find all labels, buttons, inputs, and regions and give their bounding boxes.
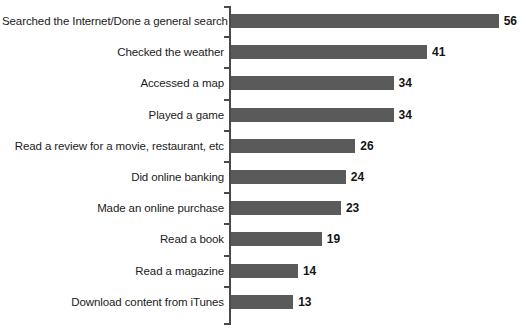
- bar-row: Made an online purchase23: [0, 198, 526, 218]
- bar-value-label: 56: [504, 11, 517, 31]
- bar: [231, 201, 341, 215]
- axis-tick: [224, 286, 230, 288]
- axis-tick: [224, 36, 230, 38]
- bar-category-label: Made an online purchase: [2, 198, 224, 218]
- axis-tick: [224, 255, 230, 257]
- bar-category-label: Download content from iTunes: [2, 292, 224, 312]
- bar-value-label: 34: [399, 73, 412, 93]
- bar-category-label: Read a magazine: [2, 261, 224, 281]
- axis-tick: [224, 161, 230, 163]
- bar: [231, 14, 499, 28]
- bar-row: Read a magazine14: [0, 261, 526, 281]
- bar-value-label: 13: [298, 292, 311, 312]
- axis-cap-top: [224, 6, 231, 8]
- bar-category-label: Checked the weather: [2, 42, 224, 62]
- bar-row: Did online banking24: [0, 167, 526, 187]
- bar: [231, 76, 394, 90]
- bar-value-label: 24: [351, 167, 364, 187]
- axis-tick: [224, 67, 230, 69]
- bar: [231, 295, 293, 309]
- axis-tick: [224, 99, 230, 101]
- bar-category-label: Read a book: [2, 229, 224, 249]
- bar: [231, 45, 427, 59]
- axis-tick: [224, 130, 230, 132]
- bar-value-label: 26: [360, 136, 373, 156]
- bar-value-label: 23: [346, 198, 359, 218]
- bar-category-label: Played a game: [2, 105, 224, 125]
- bar: [231, 139, 355, 153]
- bar: [231, 108, 394, 122]
- bar-row: Read a book19: [0, 229, 526, 249]
- bar-category-label: Did online banking: [2, 167, 224, 187]
- bar-value-label: 14: [303, 261, 316, 281]
- bar-chart: Searched the Internet/Done a general sea…: [0, 0, 526, 334]
- bar-category-label: Read a review for a movie, restaurant, e…: [2, 136, 224, 156]
- axis-tick: [224, 223, 230, 225]
- axis-cap-bottom: [224, 323, 231, 325]
- bar-row: Played a game34: [0, 105, 526, 125]
- bar-value-label: 41: [432, 42, 445, 62]
- bar-row: Searched the Internet/Done a general sea…: [0, 11, 526, 31]
- bar-value-label: 19: [327, 229, 340, 249]
- bar-row: Read a review for a movie, restaurant, e…: [0, 136, 526, 156]
- bar: [231, 264, 298, 278]
- bar-category-label: Accessed a map: [2, 73, 224, 93]
- bar: [231, 232, 322, 246]
- bar-row: Accessed a map34: [0, 73, 526, 93]
- bar-value-label: 34: [399, 105, 412, 125]
- axis-tick: [224, 192, 230, 194]
- bar: [231, 170, 346, 184]
- bar-category-label: Searched the Internet/Done a general sea…: [2, 11, 224, 31]
- bar-row: Checked the weather41: [0, 42, 526, 62]
- bar-row: Download content from iTunes13: [0, 292, 526, 312]
